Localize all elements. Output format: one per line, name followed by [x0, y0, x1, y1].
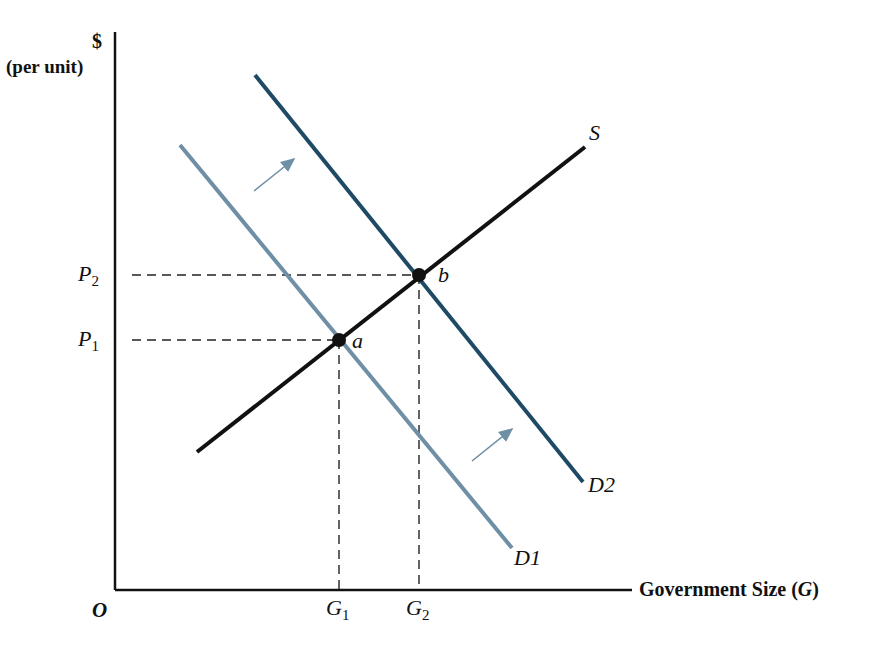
shift-arrow-icon: [254, 159, 294, 191]
demand-curve-d1: [180, 145, 512, 548]
tick-p1: P1: [78, 326, 99, 355]
y-axis-symbol: $: [92, 30, 102, 53]
tick-g2: G2: [406, 595, 429, 624]
origin-label: O: [92, 598, 107, 623]
point-b-label: b: [438, 262, 449, 288]
d2-label: D2: [588, 472, 615, 498]
d1-label: D1: [514, 545, 541, 571]
equilibrium-point-b: [412, 268, 426, 282]
equilibrium-point-a: [332, 333, 346, 347]
point-a-label: a: [352, 328, 363, 354]
y-axis-unit: (per unit): [6, 56, 83, 78]
supply-label: S: [589, 120, 600, 146]
supply-curve: [197, 147, 585, 452]
x-axis-label: Government Size (G): [639, 578, 819, 601]
diagram-canvas: [0, 0, 892, 649]
shift-arrow-icon: [472, 429, 512, 461]
tick-p2: P2: [78, 261, 99, 290]
tick-g1: G1: [326, 595, 349, 624]
